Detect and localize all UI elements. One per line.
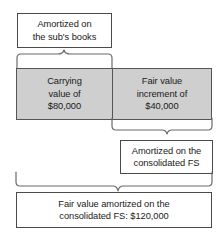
node-carrying-value: Carrying value of $80,000: [16, 68, 113, 120]
node-fair-value-amortized-total: Fair value amortized on the consolidated…: [16, 192, 212, 228]
node-fair-value-increment: Fair value increment of $40,000: [112, 68, 212, 120]
node-amortized-consolidated-fs-label: Amortized on the consolidated FS: [130, 145, 203, 170]
node-amortized-subs-books: Amortized on the sub's books: [17, 13, 112, 48]
node-fair-value-increment-label: Fair value increment of $40,000: [135, 75, 190, 113]
node-fair-value-amortized-total-label: Fair value amortized on the consolidated…: [56, 198, 171, 223]
node-amortized-subs-books-label: Amortized on the sub's books: [31, 18, 99, 43]
node-carrying-value-label: Carrying value of $80,000: [45, 75, 84, 113]
brace-increment-to-consolidated-icon: [0, 118, 224, 142]
diagram-canvas: Amortized on the sub's books Carrying va…: [0, 0, 224, 236]
brace-top-to-carrying-icon: [0, 46, 224, 70]
node-amortized-consolidated-fs: Amortized on the consolidated FS: [120, 140, 213, 174]
